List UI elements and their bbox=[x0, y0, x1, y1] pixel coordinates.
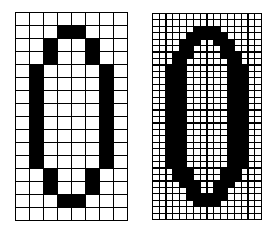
pixel-cell bbox=[187, 156, 193, 161]
pixel-cell bbox=[173, 124, 179, 129]
pixel-cell bbox=[153, 130, 159, 135]
pixel-cell bbox=[72, 195, 85, 207]
pixel-cell bbox=[235, 33, 241, 38]
pixel-cell bbox=[160, 162, 166, 167]
pixel-cell bbox=[180, 46, 186, 51]
pixel-cell bbox=[194, 66, 200, 71]
pixel-cell bbox=[180, 117, 186, 122]
pixel-cell bbox=[221, 40, 227, 45]
pixel-cell bbox=[194, 33, 200, 38]
pixel-cell bbox=[194, 111, 200, 116]
pixel-cell bbox=[160, 149, 166, 154]
pixel-cell bbox=[187, 182, 193, 187]
pixel-cell bbox=[160, 130, 166, 135]
pixel-cell bbox=[100, 208, 113, 220]
pixel-cell bbox=[180, 53, 186, 58]
pixel-cell bbox=[167, 33, 173, 38]
pixel-cell bbox=[44, 78, 57, 90]
pixel-cell bbox=[72, 208, 85, 220]
pixel-cell bbox=[221, 136, 227, 141]
pixel-cell bbox=[235, 91, 241, 96]
pixel-cell bbox=[208, 188, 214, 193]
pixel-cell bbox=[242, 201, 248, 206]
pixel-cell bbox=[160, 27, 166, 32]
pixel-cell bbox=[16, 143, 29, 155]
pixel-cell bbox=[100, 182, 113, 194]
pixel-cell bbox=[86, 117, 99, 129]
pixel-cell bbox=[201, 175, 207, 180]
pixel-cell bbox=[221, 78, 227, 83]
pixel-cell bbox=[242, 72, 248, 77]
pixel-cell bbox=[249, 66, 255, 71]
pixel-cell bbox=[16, 156, 29, 168]
pixel-cell bbox=[194, 149, 200, 154]
pixel-cell bbox=[208, 72, 214, 77]
pixel-cell bbox=[72, 52, 85, 64]
pixel-cell bbox=[228, 194, 234, 199]
pixel-cell bbox=[194, 169, 200, 174]
pixel-cell bbox=[255, 14, 261, 19]
pixel-cell bbox=[100, 39, 113, 51]
pixel-cell bbox=[100, 91, 113, 103]
pixel-cell bbox=[242, 169, 248, 174]
pixel-cell bbox=[58, 65, 71, 77]
pixel-cell bbox=[44, 169, 57, 181]
pixel-cell bbox=[214, 175, 220, 180]
pixel-cell bbox=[249, 201, 255, 206]
pixel-cell bbox=[173, 91, 179, 96]
pixel-cell bbox=[153, 169, 159, 174]
pixel-cell bbox=[16, 52, 29, 64]
pixel-cell bbox=[173, 182, 179, 187]
pixel-cell bbox=[208, 66, 214, 71]
pixel-cell bbox=[235, 98, 241, 103]
pixel-cell bbox=[201, 66, 207, 71]
pixel-cell bbox=[255, 66, 261, 71]
pixel-cell bbox=[160, 33, 166, 38]
pixel-cell bbox=[173, 66, 179, 71]
pixel-cell bbox=[153, 162, 159, 167]
pixel-cell bbox=[187, 188, 193, 193]
pixel-cell bbox=[173, 207, 179, 212]
pixel-cell bbox=[228, 156, 234, 161]
pixel-cell bbox=[194, 175, 200, 180]
pixel-cell bbox=[180, 188, 186, 193]
pixel-cell bbox=[30, 52, 43, 64]
pixel-cell bbox=[249, 149, 255, 154]
pixel-cell bbox=[242, 117, 248, 122]
pixel-cell bbox=[167, 156, 173, 161]
pixel-cell bbox=[214, 53, 220, 58]
pixel-cell bbox=[221, 27, 227, 32]
pixel-cell bbox=[58, 182, 71, 194]
pixel-cell bbox=[255, 20, 261, 25]
pixel-cell bbox=[160, 46, 166, 51]
pixel-cell bbox=[228, 78, 234, 83]
pixel-cell bbox=[58, 78, 71, 90]
pixel-cell bbox=[249, 104, 255, 109]
pixel-cell bbox=[228, 111, 234, 116]
pixel-cell bbox=[228, 27, 234, 32]
pixel-cell bbox=[187, 143, 193, 148]
pixel-cell bbox=[235, 162, 241, 167]
pixel-cell bbox=[30, 78, 43, 90]
low-resolution-pixel-grid bbox=[15, 12, 128, 221]
pixel-cell bbox=[255, 162, 261, 167]
pixel-cell bbox=[249, 33, 255, 38]
pixel-cell bbox=[30, 26, 43, 38]
pixel-cell bbox=[221, 98, 227, 103]
pixel-cell bbox=[167, 72, 173, 77]
pixel-cell bbox=[187, 27, 193, 32]
pixel-cell bbox=[16, 208, 29, 220]
pixel-cell bbox=[167, 201, 173, 206]
pixel-cell bbox=[180, 14, 186, 19]
pixel-cell bbox=[208, 91, 214, 96]
pixel-cell bbox=[153, 72, 159, 77]
pixel-cell bbox=[160, 175, 166, 180]
pixel-cell bbox=[167, 14, 173, 19]
pixel-cell bbox=[255, 59, 261, 64]
pixel-cell bbox=[242, 20, 248, 25]
pixel-cell bbox=[187, 124, 193, 129]
pixel-cell bbox=[153, 66, 159, 71]
pixel-cell bbox=[167, 207, 173, 212]
pixel-cell bbox=[153, 46, 159, 51]
pixel-cell bbox=[160, 78, 166, 83]
